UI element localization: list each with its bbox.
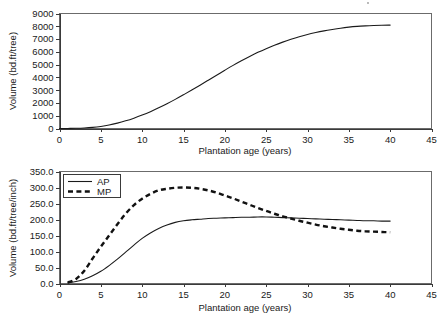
x-tick-label: 30 bbox=[302, 134, 313, 145]
bottom-y-axis-title: Volume (bd.ft/tree/inch) bbox=[7, 179, 18, 277]
y-tick-label: 1000 bbox=[32, 110, 53, 121]
chart-legend: AP MP bbox=[64, 175, 121, 198]
y-tick-label: 300.0 bbox=[30, 182, 54, 193]
y-tick-label: 0.0 bbox=[40, 278, 53, 289]
x-tick-label: 0 bbox=[57, 289, 62, 300]
chart-figure-bottom: 0.050.0100.0150.0200.0250.0300.0350.0 05… bbox=[0, 160, 446, 320]
y-tick-label: 350.0 bbox=[30, 166, 54, 177]
top-plot-frame bbox=[60, 14, 432, 129]
x-tick-label: 10 bbox=[137, 134, 148, 145]
y-tick-label: 5000 bbox=[32, 59, 53, 70]
top-x-tick-labels: 051015202530354045 bbox=[57, 134, 437, 145]
x-tick-label: 5 bbox=[98, 134, 103, 145]
top-series-group bbox=[60, 25, 391, 128]
x-tick-label: 10 bbox=[137, 289, 148, 300]
x-tick-label: 35 bbox=[344, 289, 355, 300]
x-tick-label: 40 bbox=[385, 289, 396, 300]
y-tick-label: 100.0 bbox=[30, 246, 54, 257]
x-tick-label: 45 bbox=[426, 134, 437, 145]
y-tick-label: 7000 bbox=[32, 33, 53, 44]
y-tick-label: 2000 bbox=[32, 97, 53, 108]
y-tick-label: 9000 bbox=[32, 8, 53, 19]
bottom-x-tick-labels: 051015202530354045 bbox=[57, 289, 437, 300]
y-tick-label: 4000 bbox=[32, 72, 53, 83]
x-tick-label: 20 bbox=[220, 134, 231, 145]
x-tick-label: 20 bbox=[220, 289, 231, 300]
y-tick-label: 3000 bbox=[32, 85, 53, 96]
y-tick-label: 200.0 bbox=[30, 214, 54, 225]
y-tick-label: 250.0 bbox=[30, 198, 54, 209]
x-tick-label: 25 bbox=[261, 134, 272, 145]
x-tick-label: 35 bbox=[344, 134, 355, 145]
bottom-y-tick-labels: 0.050.0100.0150.0200.0250.0300.0350.0 bbox=[30, 166, 54, 289]
y-tick-label: 6000 bbox=[32, 46, 53, 57]
y-tick-label: 150.0 bbox=[30, 230, 54, 241]
bottom-chart-canvas: 0.050.0100.0150.0200.0250.0300.0350.0 05… bbox=[0, 160, 446, 320]
legend-label-mp: MP bbox=[97, 186, 111, 197]
chart-figure-top: 0100020003000400050006000700080009000 05… bbox=[0, 0, 446, 160]
x-tick-label: 5 bbox=[98, 289, 103, 300]
y-tick-label: 0 bbox=[48, 123, 53, 134]
bottom-x-axis-title: Plantation age (years) bbox=[199, 302, 292, 313]
top-chart-canvas: 0100020003000400050006000700080009000 05… bbox=[0, 0, 446, 160]
x-tick-label: 40 bbox=[385, 134, 396, 145]
series-path-ap bbox=[68, 217, 390, 283]
x-tick-label: 15 bbox=[178, 134, 189, 145]
scan-speck bbox=[367, 2, 369, 4]
series-path-cumulative-volume bbox=[60, 25, 391, 128]
x-tick-label: 30 bbox=[302, 289, 313, 300]
top-y-tick-labels: 0100020003000400050006000700080009000 bbox=[32, 8, 53, 134]
x-tick-label: 45 bbox=[426, 289, 437, 300]
y-tick-label: 50.0 bbox=[35, 262, 54, 273]
bottom-series-group bbox=[68, 188, 390, 283]
series-path-mp bbox=[68, 188, 390, 283]
x-tick-label: 25 bbox=[261, 289, 272, 300]
legend-box bbox=[64, 175, 121, 198]
x-tick-label: 0 bbox=[57, 134, 62, 145]
top-x-axis-title: Plantation age (years) bbox=[199, 145, 292, 156]
y-tick-label: 8000 bbox=[32, 21, 53, 32]
x-tick-label: 15 bbox=[178, 289, 189, 300]
top-y-axis-title: Volume (bd.ft/tree) bbox=[7, 32, 18, 110]
top-axis-ticks bbox=[56, 14, 433, 133]
